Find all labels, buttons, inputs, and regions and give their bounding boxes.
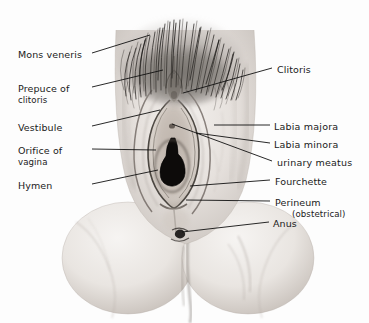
label-clitoris: Clitoris	[277, 64, 311, 76]
label-clitoris-text: Clitoris	[277, 64, 311, 75]
label-prepuce-of-clitoris-line1: Prepuce of	[18, 83, 69, 94]
label-fourchette: Fourchette	[275, 176, 327, 188]
label-vestibule-text: Vestibule	[18, 122, 62, 133]
label-anus-text: Anus	[273, 218, 297, 229]
label-perineum: Perineum (obstetrical)	[275, 197, 346, 219]
anatomical-figure: Mons veneris Prepuce of clitoris Vestibu…	[0, 0, 369, 323]
label-perineum-text: Perineum	[275, 197, 321, 208]
leader-anus	[182, 222, 269, 232]
label-fourchette-text: Fourchette	[275, 176, 327, 187]
leader-clitoris	[183, 68, 272, 93]
leader-hymen	[92, 170, 158, 184]
label-hymen: Hymen	[18, 180, 52, 192]
leader-mons-veneris	[92, 35, 150, 53]
label-mons-veneris-text: Mons veneris	[18, 49, 82, 60]
label-labia-majora-text: Labia majora	[274, 121, 338, 132]
leader-fourchette	[190, 180, 270, 186]
label-labia-minora-text: Labia minora	[274, 139, 338, 150]
label-urinary-meatus-text: urinary meatus	[277, 157, 352, 168]
label-orifice-of-vagina: Orifice of vagina	[18, 145, 62, 167]
label-labia-majora: Labia majora	[274, 121, 338, 133]
label-mons-veneris: Mons veneris	[18, 49, 82, 61]
label-urinary-meatus: urinary meatus	[277, 157, 352, 169]
label-labia-minora: Labia minora	[274, 139, 338, 151]
label-prepuce-of-clitoris-line2: clitoris	[18, 95, 69, 106]
leader-prepuce-clitoris	[92, 70, 163, 87]
leader-vestibule	[92, 110, 160, 126]
label-prepuce-of-clitoris: Prepuce of clitoris	[18, 83, 69, 105]
label-orifice-of-vagina-line2: vagina	[18, 157, 62, 168]
leader-perineum	[186, 200, 270, 201]
label-vestibule: Vestibule	[18, 122, 62, 134]
label-hymen-text: Hymen	[18, 180, 52, 191]
leader-urinary-meatus	[172, 124, 272, 161]
label-orifice-of-vagina-line1: Orifice of	[18, 145, 62, 156]
leader-orifice-vagina	[92, 149, 156, 150]
leader-labia-minora	[196, 133, 270, 143]
label-anus: Anus	[273, 218, 297, 230]
